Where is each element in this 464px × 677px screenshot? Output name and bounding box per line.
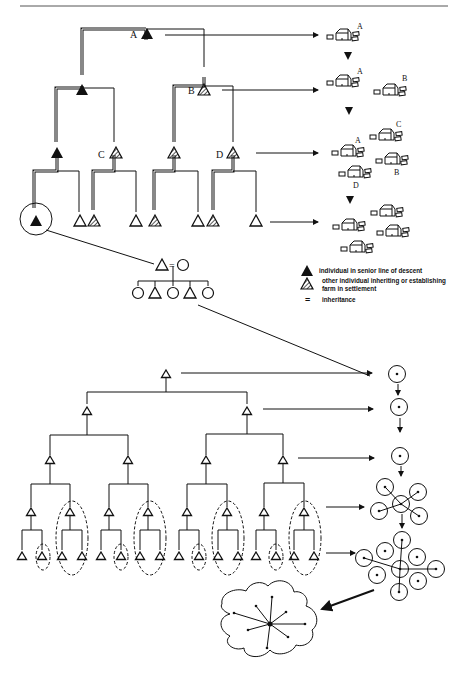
farm-icon — [333, 219, 365, 231]
farm-label: B — [402, 74, 407, 83]
senior-line-triangle-icon — [30, 215, 42, 226]
husband-triangle-icon — [156, 259, 168, 270]
legend-senior-line: individual in senior line of descent — [319, 267, 423, 274]
settlement-site-icon — [389, 366, 406, 383]
territory-cluster — [221, 581, 317, 657]
open-triangle-icon — [250, 215, 262, 226]
daughter-circle-icon — [203, 288, 214, 299]
open-triangle-icon — [192, 215, 204, 226]
bottom-genealogy-tree — [18, 370, 322, 575]
family-group — [252, 501, 322, 575]
triangle-icon — [279, 456, 288, 464]
triangle-icon — [300, 508, 309, 516]
triangle-icon — [260, 508, 269, 516]
triangle-icon — [144, 508, 153, 516]
site-cluster-6 — [371, 479, 428, 525]
triangle-icon — [223, 508, 232, 516]
filled-triangle-icon — [301, 265, 313, 276]
label-b: B — [188, 85, 195, 96]
settlement-stage-1: A — [327, 22, 363, 41]
daughter-circle-icon — [133, 288, 144, 299]
triangle-icon — [97, 552, 106, 560]
family-group — [175, 501, 245, 575]
farm-icon — [376, 153, 408, 165]
node-d-hatched-triangle-icon — [227, 147, 239, 158]
son-triangle-icon — [184, 287, 196, 298]
family-group — [97, 501, 167, 575]
hatched-triangle-icon — [88, 215, 100, 226]
top-arrows — [165, 35, 318, 222]
triangle-icon — [117, 552, 126, 560]
triangle-icon — [18, 552, 27, 560]
farm-label: A — [357, 22, 363, 31]
family-group — [18, 501, 89, 575]
open-triangle-icon — [74, 215, 86, 226]
wife-circle-icon — [178, 260, 189, 271]
label-a: A — [130, 29, 138, 40]
territory-arrow — [322, 590, 374, 609]
label-c: C — [98, 149, 105, 160]
farm-label: D — [353, 181, 359, 190]
settlement-stage-2: A B — [327, 67, 407, 96]
legend-other-individual-line1: other individual inheriting or establish… — [322, 277, 446, 285]
hatched-triangle-icon — [168, 147, 180, 158]
hatched-triangle-icon — [301, 278, 313, 289]
down-arrow-icon — [345, 107, 353, 115]
son-triangle-icon — [149, 287, 161, 298]
farm-icon — [377, 225, 409, 237]
farm-icon — [332, 145, 364, 157]
hatched-triangle-icon — [207, 215, 219, 226]
triangle-icon — [66, 508, 75, 516]
triangle-icon — [252, 552, 261, 560]
farm-icon — [370, 129, 402, 141]
farm-icon — [371, 205, 403, 217]
site-cluster-9 — [356, 532, 445, 601]
farm-icon — [339, 166, 371, 178]
triangle-icon — [38, 552, 47, 560]
settlement-stage-4 — [333, 205, 409, 260]
farm-icon — [327, 75, 359, 87]
legend-inheritance: inheritance — [322, 296, 356, 303]
settlement-site-icon — [392, 448, 409, 465]
label-d: D — [216, 149, 223, 160]
settlement-diagram: A B C D A A B A — [0, 0, 464, 677]
triangle-icon — [124, 456, 133, 464]
farm-label: A — [355, 136, 361, 145]
triangle-icon — [46, 456, 55, 464]
settlement-site-icon — [391, 399, 408, 416]
top-genealogy-tree: A B C D — [20, 28, 262, 235]
triangle-icon — [202, 456, 211, 464]
farm-icon — [374, 84, 406, 96]
kinship-detail: = — [46, 230, 370, 376]
open-triangle-icon — [130, 215, 142, 226]
hatched-triangle-icon — [149, 215, 161, 226]
farm-label: C — [396, 120, 401, 129]
senior-line-triangle-icon — [51, 147, 63, 158]
farm-icon — [327, 29, 359, 41]
down-arrow-icon — [346, 196, 354, 204]
farm-label: A — [357, 67, 363, 76]
triangle-icon — [243, 407, 252, 415]
triangle-icon — [272, 552, 281, 560]
legend: individual in senior line of descent oth… — [301, 265, 446, 305]
triangle-icon — [310, 552, 319, 560]
legend-other-individual-line2: farm in settlement — [322, 285, 377, 292]
node-c-hatched-triangle-icon — [110, 147, 122, 158]
triangle-icon — [175, 552, 184, 560]
legend-equals-symbol: = — [305, 295, 310, 305]
triangle-icon — [27, 508, 36, 516]
triangle-icon — [195, 552, 204, 560]
down-arrow-icon — [344, 52, 352, 60]
triangle-icon — [105, 508, 114, 516]
root-triangle-icon — [162, 370, 171, 378]
daughter-circle-icon — [168, 288, 179, 299]
farm-label: B — [394, 168, 399, 177]
triangle-icon — [83, 407, 92, 415]
triangle-icon — [183, 508, 192, 516]
settlement-stage-3: A C B D — [332, 120, 408, 190]
inheritance-equals: = — [169, 260, 175, 271]
